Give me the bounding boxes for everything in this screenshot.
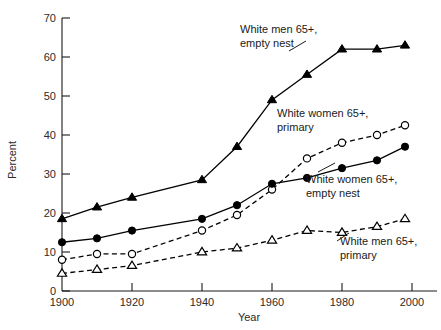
y-tick-label-20: 20: [44, 207, 56, 219]
data-point-marker: [400, 214, 409, 221]
data-point-marker: [373, 131, 380, 138]
data-point-marker: [400, 41, 409, 48]
annotation-women-primary-line2: primary: [277, 121, 314, 133]
y-tick-label-40: 40: [44, 129, 56, 141]
x-tick-label-1920: 1920: [120, 296, 144, 308]
x-tick-label-1960: 1960: [260, 296, 284, 308]
data-point-marker: [267, 236, 276, 243]
y-axis-title: Percent: [6, 141, 18, 179]
data-point-marker: [233, 202, 240, 209]
y-tick-label-70: 70: [44, 12, 56, 24]
y-tick-label-10: 10: [44, 246, 56, 258]
x-axis-ticks: [132, 283, 412, 291]
data-point-marker: [268, 180, 275, 187]
data-point-marker: [267, 95, 276, 102]
x-tick-label-1980: 1980: [330, 296, 354, 308]
data-point-marker: [303, 155, 310, 162]
annotation-men-empty-nest-line1: White men 65+,: [240, 23, 317, 35]
x-tick-label-1940: 1940: [190, 296, 214, 308]
data-point-marker: [338, 139, 345, 146]
data-point-marker: [338, 165, 345, 172]
annotation-women-primary: White women 65+, primary: [277, 107, 368, 133]
chart-plot-area: 010203040506070 190019201940196019802000…: [0, 0, 441, 330]
data-point-marker: [233, 211, 240, 218]
annotation-men-primary: White men 65+, primary: [340, 235, 417, 261]
data-point-marker: [128, 227, 135, 234]
annotation-men-primary-line2: primary: [340, 249, 377, 261]
annotation-men-empty-nest-line2: empty nest: [240, 37, 294, 49]
data-point-marker: [337, 45, 346, 52]
y-axis-ticks: [62, 18, 70, 291]
data-point-marker: [198, 215, 205, 222]
data-point-marker: [128, 250, 135, 257]
x-axis-title: Year: [238, 311, 261, 323]
chart-figure: 010203040506070 190019201940196019802000…: [0, 0, 441, 330]
annotation-women-empty-nest-line1: White women 65+,: [306, 173, 397, 185]
data-point-marker: [198, 227, 205, 234]
data-point-marker: [127, 261, 136, 268]
data-point-marker: [302, 70, 311, 77]
data-point-marker: [58, 239, 65, 246]
axis-group: [62, 18, 437, 291]
y-axis-tick-labels: 010203040506070: [44, 12, 56, 297]
annotation-men-empty-nest: White men 65+, empty nest: [240, 23, 317, 49]
y-tick-label-60: 60: [44, 51, 56, 63]
y-tick-label-30: 30: [44, 168, 56, 180]
annotation-women-empty-nest: White women 65+, empty nest: [306, 173, 397, 199]
x-tick-label-2000: 2000: [400, 296, 424, 308]
data-point-marker: [401, 122, 408, 129]
y-tick-label-50: 50: [44, 90, 56, 102]
annotation-women-primary-line1: White women 65+,: [277, 107, 368, 119]
data-point-marker: [373, 157, 380, 164]
data-point-marker: [93, 250, 100, 257]
data-point-marker: [401, 143, 408, 150]
x-tick-label-1900: 1900: [50, 296, 74, 308]
x-axis-tick-labels: 190019201940196019802000: [50, 296, 424, 308]
annotation-men-primary-line1: White men 65+,: [340, 235, 417, 247]
data-point-marker: [302, 226, 311, 233]
data-point-marker: [93, 235, 100, 242]
data-point-marker: [58, 256, 65, 263]
annotation-women-empty-nest-line2: empty nest: [306, 187, 360, 199]
